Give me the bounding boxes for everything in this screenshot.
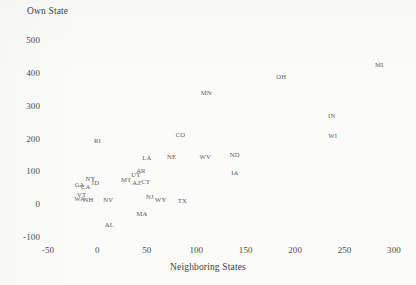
data-point-ri: RI xyxy=(94,138,101,145)
data-point-ma: MA xyxy=(136,211,147,218)
data-point-wv: WV xyxy=(199,154,210,161)
data-point-nd: ND xyxy=(230,151,240,158)
x-tick-label: 200 xyxy=(275,245,315,255)
data-point-la: LA xyxy=(142,155,151,162)
y-tick-label: 200 xyxy=(6,134,40,144)
y-axis-title: Own State xyxy=(27,6,68,16)
x-tick-label: 100 xyxy=(176,245,216,255)
x-axis-title: Neighboring States xyxy=(0,262,416,272)
data-point-az: AZ xyxy=(132,180,141,187)
data-point-oh: OH xyxy=(276,74,286,81)
data-point-mn: MN xyxy=(201,90,212,97)
x-tick-label: 0 xyxy=(77,245,117,255)
data-point-mi: MI xyxy=(375,61,383,68)
data-point-nh: NH xyxy=(84,196,94,203)
x-tick-label: 50 xyxy=(127,245,167,255)
data-point-ct: CT xyxy=(141,179,150,186)
data-point-wi: WI xyxy=(328,133,337,140)
data-point-tx: TX xyxy=(178,197,187,204)
data-point-ne: NE xyxy=(167,154,176,161)
x-tick-label: -50 xyxy=(28,245,68,255)
x-tick-label: 150 xyxy=(226,245,266,255)
y-tick-label: -100 xyxy=(6,232,40,242)
data-point-co: CO xyxy=(176,131,186,138)
scatter-plot: Own State Neighboring States 50040030020… xyxy=(0,0,416,285)
data-point-nj: NJ xyxy=(146,193,154,200)
data-point-al: AL xyxy=(105,221,114,228)
data-point-ia: IA xyxy=(231,169,238,176)
data-point-ut: UT xyxy=(131,172,140,179)
y-tick-label: 300 xyxy=(6,101,40,111)
data-point-nv: NV xyxy=(103,197,113,204)
x-tick-label: 300 xyxy=(374,245,414,255)
x-tick-label: 250 xyxy=(325,245,365,255)
data-point-mt: MT xyxy=(121,177,131,184)
y-tick-label: 400 xyxy=(6,68,40,78)
data-point-id: ID xyxy=(92,180,99,187)
data-point-in: IN xyxy=(328,113,335,120)
paper-texture-overlay xyxy=(0,0,416,285)
y-tick-label: 100 xyxy=(6,166,40,176)
y-tick-label: 500 xyxy=(6,35,40,45)
y-tick-label: 0 xyxy=(6,199,40,209)
data-point-wy: WY xyxy=(155,197,166,204)
